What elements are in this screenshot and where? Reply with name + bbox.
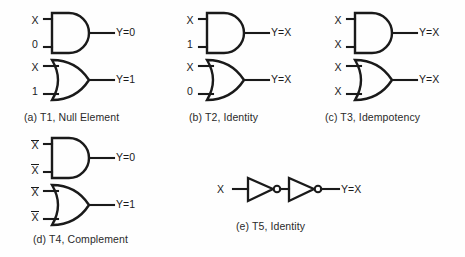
output-label: Y=X <box>419 27 439 38</box>
output-label: Y=0 <box>116 152 135 163</box>
input-label: 1 <box>28 86 42 97</box>
group-b-or-gate: X 0 Y=X <box>155 55 305 105</box>
group-c-caption: (c) T3, Idempotency <box>325 111 420 123</box>
group-d-or-gate: X X Y=1 <box>0 180 150 230</box>
input-label: X <box>217 184 224 195</box>
output-label: Y=X <box>271 74 291 85</box>
output-label: Y=1 <box>116 74 135 85</box>
input-label-overbar: X <box>28 164 42 176</box>
input-label: X <box>331 39 345 50</box>
input-label-overbar: X <box>28 211 42 223</box>
group-e-not-chain: X Y=X <box>215 175 395 217</box>
group-b-and-gate: X 1 Y=X <box>155 8 305 58</box>
group-c-and-gate: X X Y=X <box>303 8 453 58</box>
input-label: 0 <box>28 39 42 50</box>
input-label-text: X <box>31 211 38 223</box>
output-label: Y=X <box>341 184 361 195</box>
input-label-text: X <box>31 164 38 176</box>
input-label: X <box>28 140 42 151</box>
input-label: X <box>331 86 345 97</box>
input-label: X <box>183 15 197 26</box>
output-label: Y=X <box>271 27 291 38</box>
input-label: X <box>331 15 345 26</box>
group-d-and-gate: X X Y=0 <box>0 133 150 183</box>
input-label: X <box>28 15 42 26</box>
input-label-text: X <box>31 187 38 198</box>
group-e-caption: (e) T5, Identity <box>236 220 305 232</box>
input-label-text: X <box>31 140 38 151</box>
input-label: X <box>331 62 345 73</box>
input-label: 0 <box>183 86 197 97</box>
output-label: Y=X <box>419 74 439 85</box>
group-a-and-gate: X 0 Y=0 <box>0 8 150 58</box>
group-c-or-gate: X X Y=X <box>303 55 453 105</box>
group-a-or-gate: X 1 Y=1 <box>0 55 150 105</box>
not-gate-icon <box>215 175 395 213</box>
input-label: X <box>28 62 42 73</box>
output-label: Y=0 <box>116 27 135 38</box>
logic-theorems-figure: X 0 Y=0 X 1 Y=1 (a) T1, Null Element <box>0 0 465 257</box>
input-label: X <box>28 187 42 198</box>
input-label: 1 <box>183 39 197 50</box>
input-label: X <box>183 62 197 73</box>
group-a-caption: (a) T1, Null Element <box>24 111 119 123</box>
group-b-caption: (b) T2, Identity <box>189 111 258 123</box>
group-d-caption: (d) T4, Complement <box>33 233 128 245</box>
output-label: Y=1 <box>116 199 135 210</box>
